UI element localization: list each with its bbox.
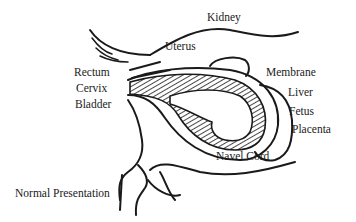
- label-bladder: Bladder: [75, 99, 111, 111]
- label-kidney: Kidney: [207, 12, 241, 24]
- label-cervix: Cervix: [76, 83, 107, 95]
- bladder-outline: [119, 100, 142, 200]
- diagram-caption: Normal Presentation: [15, 188, 110, 200]
- label-liver: Liver: [288, 87, 313, 99]
- normal-presentation-diagram: Kidney Uterus Rectum Cervix Bladder Memb…: [0, 0, 356, 222]
- label-membrane: Membrane: [266, 67, 316, 79]
- leg-right: [136, 165, 147, 215]
- navel-cord-line: [150, 162, 295, 174]
- label-navel-cord: Navel Cord: [216, 151, 269, 163]
- label-rectum: Rectum: [74, 67, 110, 79]
- label-fetus: Fetus: [289, 106, 314, 118]
- label-uterus: Uterus: [165, 41, 196, 53]
- label-placenta: Placenta: [292, 124, 331, 136]
